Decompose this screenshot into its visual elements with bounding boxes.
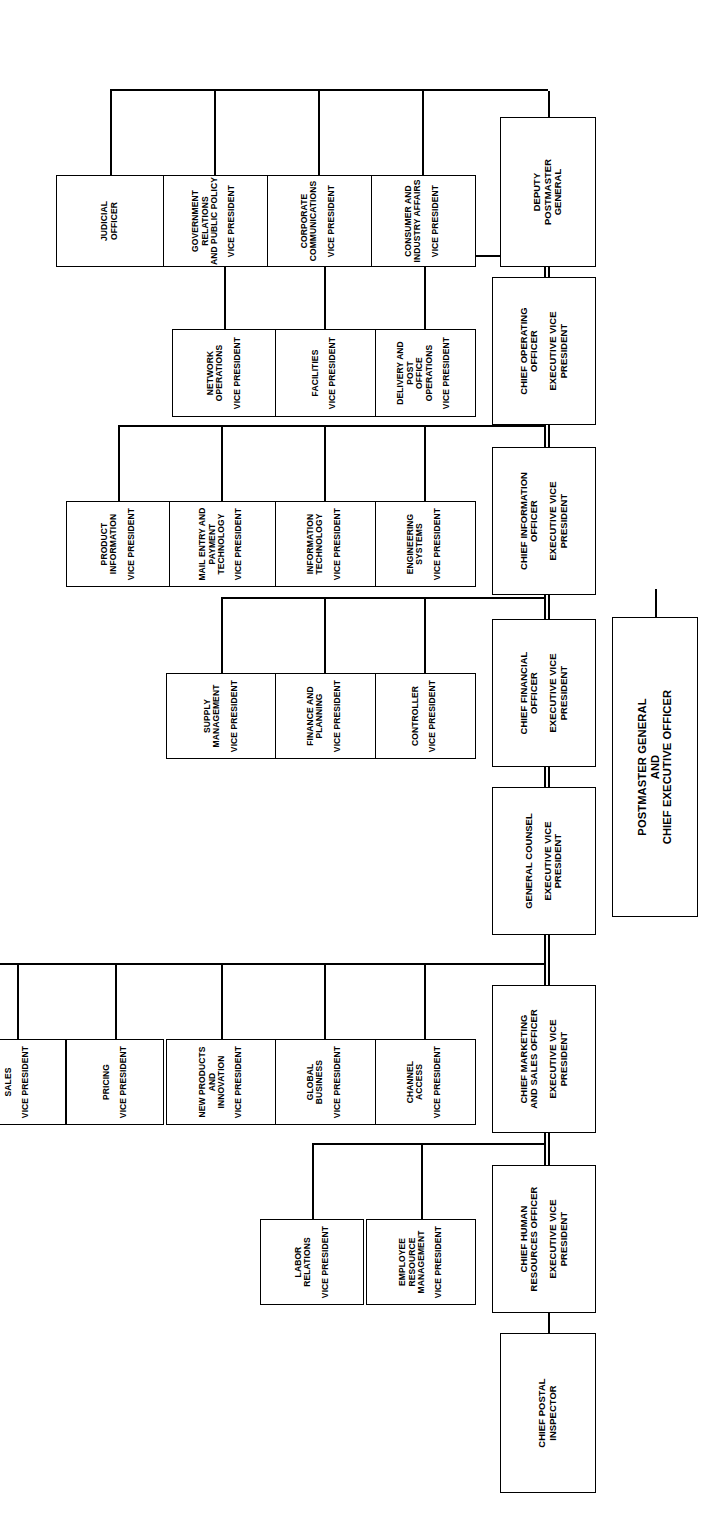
node-new-products-and-innovation[interactable]: NEW PRODUCTS AND INNOVATION VICE PRESIDE… [166, 1039, 276, 1125]
node-rank: VICE PRESIDENT [233, 337, 243, 409]
node-global-business[interactable]: GLOBAL BUSINESS VICE PRESIDENT [272, 1039, 376, 1125]
node-rank: EXECUTIVE VICE PRESIDENT [543, 821, 564, 900]
node-judicial-officer[interactable]: JUDICIAL OFFICER [56, 175, 164, 267]
node-rank: VICE PRESIDENT [119, 1046, 129, 1118]
node-employee-resource-management[interactable]: EMPLOYEE RESOURCE MANAGEMENT VICE PRESID… [366, 1219, 476, 1305]
node-rank: VICE PRESIDENT [227, 185, 237, 257]
node-general-counsel[interactable]: GENERAL COUNSEL EXECUTIVE VICE PRESIDENT [492, 787, 596, 935]
node-rank: VICE PRESIDENT [234, 1046, 244, 1118]
connector [312, 1143, 544, 1145]
connector [544, 427, 546, 447]
node-rank: VICE PRESIDENT [333, 680, 343, 752]
node-chief-financial-officer[interactable]: CHIEF FINANCIAL OFFICER EXECUTIVE VICE P… [492, 619, 596, 767]
node-product-information[interactable]: PRODUCT INFORMATION VICE PRESIDENT [66, 501, 170, 587]
node-rank: VICE PRESIDENT [428, 680, 438, 752]
node-rank: VICE PRESIDENT [234, 508, 244, 580]
node-rank: VICE PRESIDENT [327, 185, 337, 257]
connector [221, 597, 544, 599]
node-rank: VICE PRESIDENT [442, 337, 452, 409]
node-supply-management[interactable]: SUPPLY MANAGEMENT VICE PRESIDENT [166, 673, 276, 759]
node-government-relations-and-public-policy[interactable]: GOVERNMENT RELATIONS AND PUBLIC POLICY V… [160, 175, 268, 267]
node-rank: VICE PRESIDENT [230, 680, 240, 752]
node-rank: VICE PRESIDENT [21, 1046, 31, 1118]
node-title: CONSUMER AND INDUSTRY AFFAIRS [404, 180, 423, 263]
node-title: MAIL ENTRY AND PAYMENT TECHNOLOGY [198, 502, 227, 586]
node-chief-marketing-and-sales-officer[interactable]: CHIEF MARKETING AND SALES OFFICER EXECUT… [492, 985, 596, 1133]
node-rank: VICE PRESIDENT [434, 1226, 444, 1298]
node-title: JUDICIAL OFFICER [100, 201, 119, 241]
connector [0, 963, 544, 965]
node-finance-and-planning[interactable]: FINANCE AND PLANNING VICE PRESIDENT [272, 673, 376, 759]
node-engineering-systems[interactable]: ENGINEERING SYSTEMS VICE PRESIDENT [372, 501, 476, 587]
connector [544, 965, 546, 985]
connector [118, 425, 544, 427]
node-rank: EXECUTIVE VICE PRESIDENT [548, 481, 569, 560]
connector [655, 589, 657, 617]
node-rank: VICE PRESIDENT [333, 1046, 343, 1118]
node-chief-operating-officer[interactable]: CHIEF OPERATING OFFICER EXECUTIVE VICE P… [492, 277, 596, 425]
node-title: LABOR RELATIONS [294, 1237, 313, 1286]
node-title: CHANNEL ACCESS [406, 1061, 425, 1103]
node-title: SUPPLY MANAGEMENT [203, 685, 222, 748]
node-controller[interactable]: CONTROLLER VICE PRESIDENT [372, 673, 476, 759]
node-title: SALES [4, 1068, 14, 1097]
node-title: CHIEF MARKETING AND SALES OFFICER [519, 1009, 540, 1109]
node-pricing[interactable]: PRICING VICE PRESIDENT [66, 1039, 164, 1125]
node-title: CHIEF INFORMATION OFFICER [519, 472, 540, 570]
node-title: EMPLOYEE RESOURCE MANAGEMENT [398, 1220, 427, 1304]
node-title: PRICING [102, 1064, 112, 1100]
node-labor-relations[interactable]: LABOR RELATIONS VICE PRESIDENT [260, 1219, 364, 1305]
connector [544, 1145, 546, 1165]
node-title: CHIEF HUMAN RESOURCES OFFICER [519, 1187, 540, 1292]
node-sales[interactable]: SALES VICE PRESIDENT [0, 1039, 66, 1125]
node-rank: VICE PRESIDENT [127, 508, 137, 580]
node-channel-access[interactable]: CHANNEL ACCESS VICE PRESIDENT [372, 1039, 476, 1125]
node-rank: VICE PRESIDENT [328, 337, 338, 409]
connector [548, 91, 550, 117]
node-rank: EXECUTIVE VICE PRESIDENT [548, 1019, 569, 1098]
node-title: CHIEF POSTAL INSPECTOR [537, 1378, 558, 1447]
node-facilities[interactable]: FACILITIES VICE PRESIDENT [272, 329, 376, 417]
node-title: DELIVERY AND POST OFFICE OPERATIONS [396, 330, 434, 416]
node-chief-postal-inspector[interactable]: CHIEF POSTAL INSPECTOR [500, 1333, 596, 1493]
node-network-operations[interactable]: NETWORK OPERATIONS VICE PRESIDENT [172, 329, 276, 417]
node-rank: EXECUTIVE VICE PRESIDENT [548, 311, 569, 390]
node-consumer-and-industry-affairs[interactable]: CONSUMER AND INDUSTRY AFFAIRS VICE PRESI… [368, 175, 476, 267]
node-title: CONTROLLER [411, 686, 421, 746]
node-title: POSTMASTER GENERAL AND CHIEF EXECUTIVE O… [636, 690, 674, 845]
org-chart-rotated-canvas: POSTMASTER GENERAL AND CHIEF EXECUTIVE O… [0, 0, 716, 1525]
connector [110, 89, 548, 91]
node-postmaster-general[interactable]: POSTMASTER GENERAL AND CHIEF EXECUTIVE O… [612, 617, 698, 917]
node-title: NETWORK OPERATIONS [206, 345, 225, 402]
node-corporate-communications[interactable]: CORPORATE COMMUNICATIONS VICE PRESIDENT [264, 175, 372, 267]
node-rank: VICE PRESIDENT [333, 508, 343, 580]
node-title: PRODUCT INFORMATION [100, 514, 119, 574]
node-mail-entry-and-payment-technology[interactable]: MAIL ENTRY AND PAYMENT TECHNOLOGY VICE P… [166, 501, 276, 587]
node-title: NEW PRODUCTS AND INNOVATION [198, 1040, 227, 1124]
node-information-technology[interactable]: INFORMATION TECHNOLOGY VICE PRESIDENT [272, 501, 376, 587]
node-rank: VICE PRESIDENT [321, 1226, 331, 1298]
node-title: ENGINEERING SYSTEMS [406, 514, 425, 575]
org-chart: POSTMASTER GENERAL AND CHIEF EXECUTIVE O… [0, 0, 716, 1525]
node-title: GLOBAL BUSINESS [306, 1060, 325, 1104]
node-rank: VICE PRESIDENT [431, 185, 441, 257]
node-title: FACILITIES [311, 350, 321, 397]
node-title: CHIEF OPERATING OFFICER [519, 307, 540, 394]
node-title: GENERAL COUNSEL [524, 813, 535, 909]
connector [544, 599, 546, 619]
node-title: CORPORATE COMMUNICATIONS [300, 181, 319, 262]
node-chief-human-resources-officer[interactable]: CHIEF HUMAN RESOURCES OFFICER EXECUTIVE … [492, 1165, 596, 1313]
node-rank: VICE PRESIDENT [433, 508, 443, 580]
node-chief-information-officer[interactable]: CHIEF INFORMATION OFFICER EXECUTIVE VICE… [492, 447, 596, 595]
node-title: DEPUTY POSTMASTER GENERAL [532, 159, 564, 225]
node-rank: EXECUTIVE VICE PRESIDENT [548, 1199, 569, 1278]
node-title: GOVERNMENT RELATIONS AND PUBLIC POLICY [191, 176, 220, 266]
node-delivery-and-post-office-operations[interactable]: DELIVERY AND POST OFFICE OPERATIONS VICE… [372, 329, 476, 417]
node-title: INFORMATION TECHNOLOGY [306, 514, 325, 575]
node-rank: EXECUTIVE VICE PRESIDENT [548, 653, 569, 732]
node-title: FINANCE AND PLANNING [306, 686, 325, 745]
node-deputy-postmaster-general[interactable]: DEPUTY POSTMASTER GENERAL [500, 117, 596, 267]
node-rank: VICE PRESIDENT [433, 1046, 443, 1118]
node-title: CHIEF FINANCIAL OFFICER [519, 652, 540, 735]
